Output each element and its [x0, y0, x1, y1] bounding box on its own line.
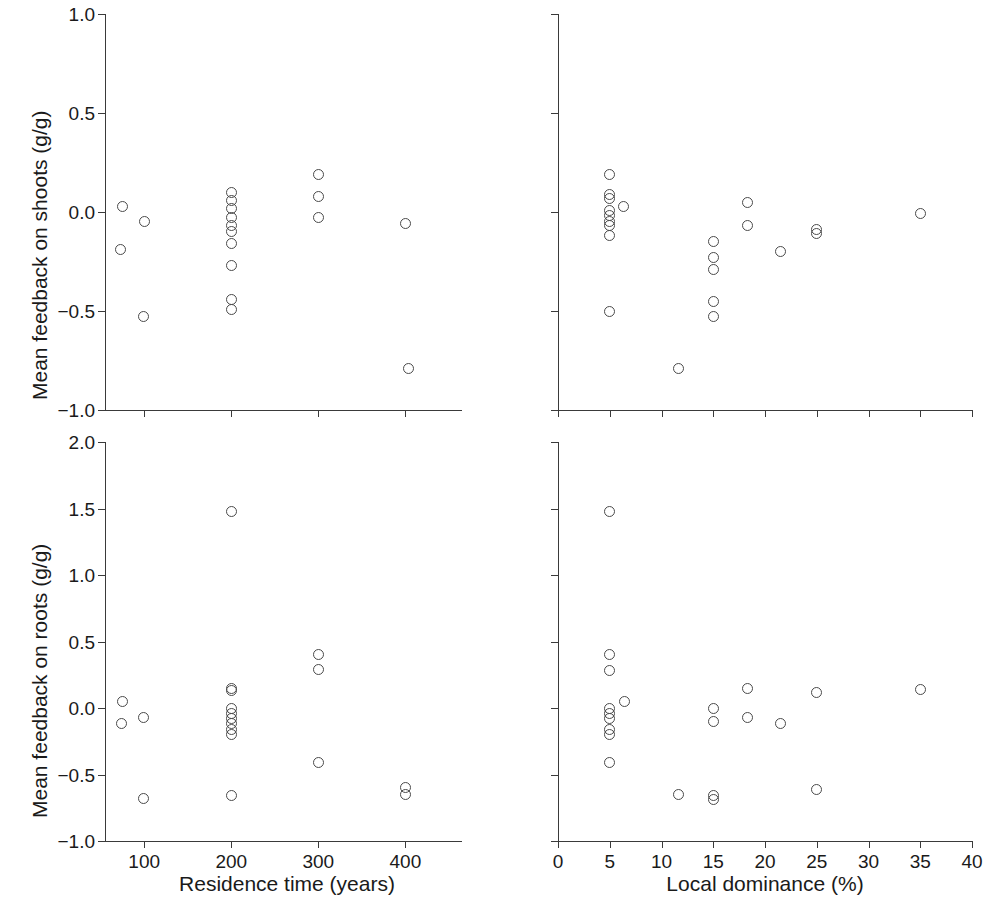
x-axis-tick [610, 410, 611, 417]
x-axis-tick [405, 410, 406, 417]
x-axis-tick [869, 410, 870, 417]
x-axis-tick [610, 841, 611, 848]
x-axis-tick [558, 841, 559, 848]
x-axis-tick [318, 841, 319, 848]
data-point [915, 208, 926, 219]
data-point [400, 218, 411, 229]
x-axis-tick [713, 410, 714, 417]
data-point [313, 757, 324, 768]
data-point [915, 684, 926, 695]
data-point [775, 246, 786, 257]
x-axis-tick-label: 200 [215, 852, 247, 871]
data-point [775, 718, 786, 729]
x-axis-tick [869, 841, 870, 848]
y-axis-tick-label: 2.0 [7, 433, 95, 452]
y-axis-tick-label: −1.0 [7, 832, 95, 851]
x-axis-tick-label: 300 [302, 852, 334, 871]
data-point [708, 296, 719, 307]
panel-bottom-left [105, 442, 462, 842]
x-axis-tick [817, 410, 818, 417]
y-axis-tick [98, 311, 105, 312]
data-point [604, 169, 615, 180]
y-axis-title-top-left: Mean feedback on shoots (g/g) [28, 110, 52, 400]
panel-top-left [105, 14, 462, 411]
y-axis-tick [551, 442, 558, 443]
panel-bottom-right [558, 442, 972, 842]
data-point [313, 649, 324, 660]
y-axis-tick [98, 775, 105, 776]
data-point [226, 294, 237, 305]
plot-area-bottom-right [558, 442, 972, 842]
data-point [226, 685, 237, 696]
x-axis-tick [318, 410, 319, 417]
y-axis-tick [98, 708, 105, 709]
data-point [313, 664, 324, 675]
x-axis-tick [817, 841, 818, 848]
y-axis-tick [551, 642, 558, 643]
x-axis-tick [765, 410, 766, 417]
x-axis-tick [713, 841, 714, 848]
data-point [811, 687, 822, 698]
data-point [742, 220, 753, 231]
data-point [115, 244, 126, 255]
x-axis-tick [231, 410, 232, 417]
data-point [618, 201, 629, 212]
data-point [742, 712, 753, 723]
x-axis-tick-label: 10 [651, 852, 672, 871]
panel-top-right [558, 14, 972, 411]
data-point [673, 789, 684, 800]
data-point [708, 236, 719, 247]
data-point [742, 683, 753, 694]
data-point [604, 713, 615, 724]
plot-area-top-left [105, 14, 462, 411]
data-point [619, 696, 630, 707]
y-axis-tick [551, 410, 558, 411]
data-point [226, 729, 237, 740]
data-point [604, 649, 615, 660]
data-point [708, 794, 719, 805]
data-point [604, 665, 615, 676]
x-axis-tick [144, 410, 145, 417]
x-axis-tick-label: 400 [390, 852, 422, 871]
data-point [400, 789, 411, 800]
x-axis-tick-label: 20 [754, 852, 775, 871]
x-axis-tick-label: 35 [910, 852, 931, 871]
y-axis-tick [551, 841, 558, 842]
y-axis-tick [98, 442, 105, 443]
x-axis-tick [972, 841, 973, 848]
x-axis-title-bottom-right: Local dominance (%) [666, 872, 863, 896]
data-point [226, 790, 237, 801]
data-point [226, 226, 237, 237]
x-axis-tick-label: 15 [703, 852, 724, 871]
y-axis-tick [551, 14, 558, 15]
data-point [708, 703, 719, 714]
data-point [116, 718, 127, 729]
y-axis-tick [551, 708, 558, 709]
x-axis-tick-label: 30 [858, 852, 879, 871]
data-point [117, 201, 128, 212]
x-axis-tick [144, 841, 145, 848]
data-point [673, 363, 684, 374]
y-axis-tick [98, 14, 105, 15]
data-point [742, 197, 753, 208]
data-point [226, 238, 237, 249]
x-axis-tick [765, 841, 766, 848]
data-point [604, 193, 615, 204]
y-axis-title-bottom-left: Mean feedback on roots (g/g) [28, 544, 52, 818]
data-point [313, 169, 324, 180]
data-point [811, 228, 822, 239]
y-axis-tick [551, 212, 558, 213]
data-point [138, 712, 149, 723]
plot-area-bottom-left [105, 442, 462, 842]
data-point [117, 696, 128, 707]
y-axis-tick [98, 575, 105, 576]
y-axis-tick [551, 509, 558, 510]
x-axis-tick-label: 100 [128, 852, 160, 871]
y-axis-tick [98, 509, 105, 510]
data-point [604, 757, 615, 768]
y-axis-tick [98, 841, 105, 842]
x-axis-tick [972, 410, 973, 417]
data-point [226, 506, 237, 517]
data-point [313, 212, 324, 223]
